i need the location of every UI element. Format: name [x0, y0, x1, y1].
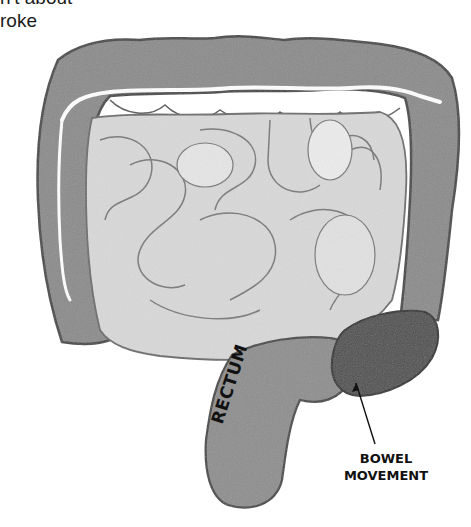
- label-bowel-line-2: MOVEMENT: [326, 467, 446, 484]
- label-bowel-line-1: BOWEL: [326, 450, 446, 467]
- label-bowel-movement: BOWEL MOVEMENT: [326, 450, 446, 484]
- intestine-illustration: [0, 0, 471, 527]
